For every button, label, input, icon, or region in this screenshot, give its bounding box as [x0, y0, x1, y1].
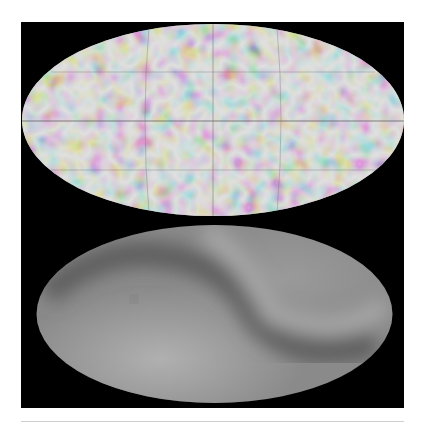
top-sky-map — [21, 22, 405, 218]
bottom-rule — [21, 421, 404, 422]
bottom-sky-map — [36, 224, 393, 404]
